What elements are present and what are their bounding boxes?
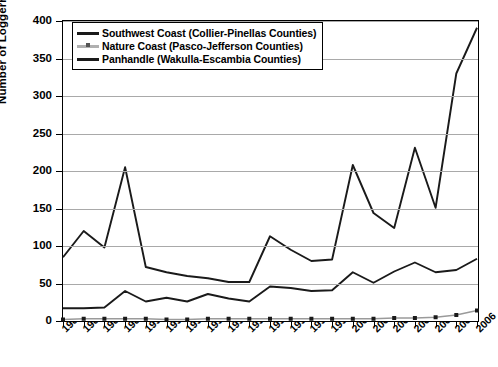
series-marker-1-9 bbox=[247, 317, 251, 321]
series-marker-1-14 bbox=[351, 317, 355, 321]
series-marker-1-5 bbox=[165, 318, 169, 322]
gridline-150 bbox=[63, 209, 478, 210]
series-marker-1-1 bbox=[82, 317, 86, 321]
legend-line-icon-nature bbox=[77, 40, 99, 51]
gridline-100 bbox=[63, 246, 478, 247]
series-marker-1-4 bbox=[144, 317, 148, 321]
series-marker-1-19 bbox=[454, 313, 458, 317]
series-marker-1-12 bbox=[309, 317, 313, 321]
legend-label-nature: Nature Coast (Pasco-Jefferson Counties) bbox=[102, 40, 303, 52]
series-marker-1-3 bbox=[123, 317, 127, 321]
chart-legend: Southwest Coast (Collier-Pinellas Counti… bbox=[72, 22, 323, 70]
series-marker-1-16 bbox=[392, 316, 396, 320]
series-marker-1-10 bbox=[268, 317, 272, 321]
series-marker-1-0 bbox=[61, 318, 65, 322]
series-marker-1-8 bbox=[227, 317, 231, 321]
series-marker-1-13 bbox=[330, 317, 334, 321]
series-marker-1-6 bbox=[185, 318, 189, 322]
series-marker-1-18 bbox=[434, 315, 438, 319]
gridline-300 bbox=[63, 96, 478, 97]
gridline-200 bbox=[63, 171, 478, 172]
legend-item-southwest-coast: Southwest Coast (Collier-Pinellas Counti… bbox=[77, 26, 316, 39]
gridline-250 bbox=[63, 134, 478, 135]
legend-line-icon-panhandle bbox=[77, 53, 99, 64]
gridline-50 bbox=[63, 284, 478, 285]
series-marker-1-7 bbox=[206, 317, 210, 321]
legend-item-nature-coast: Nature Coast (Pasco-Jefferson Counties) bbox=[77, 39, 316, 52]
legend-label-panhandle: Panhandle (Wakulla-Escambia Counties) bbox=[102, 53, 301, 65]
legend-item-panhandle: Panhandle (Wakulla-Escambia Counties) bbox=[77, 52, 316, 65]
series-marker-1-11 bbox=[289, 317, 293, 321]
series-marker-1-17 bbox=[413, 316, 417, 320]
series-marker-1-20 bbox=[475, 309, 479, 313]
legend-label-southwest: Southwest Coast (Collier-Pinellas Counti… bbox=[102, 27, 316, 39]
legend-line-icon-southwest bbox=[77, 27, 99, 38]
series-marker-1-2 bbox=[102, 317, 106, 321]
series-marker-1-15 bbox=[372, 317, 376, 321]
